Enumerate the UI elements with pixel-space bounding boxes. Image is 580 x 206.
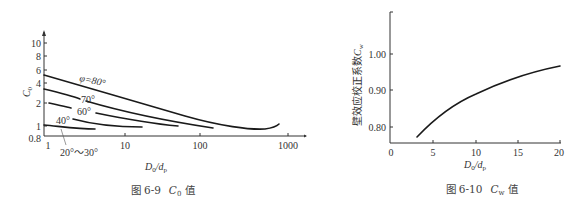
figure-caption: 图 6-10Cw值	[446, 183, 520, 197]
curve-label-70: 70°	[81, 94, 95, 105]
x-tick-label: 10	[471, 147, 481, 158]
chart-c0: 10 8 6 4 2 1 0.8 C0 1 10 100 1000 D0/dp	[21, 30, 300, 198]
x-tick-label: 1	[46, 140, 51, 151]
x-tick-label: 10	[120, 140, 130, 151]
curve-label-40: 40°	[56, 115, 70, 126]
leader-line-20-30	[61, 129, 66, 145]
figure-caption: 图 6-9C0值	[131, 184, 197, 198]
stray-arrow-mark	[300, 135, 307, 138]
y-axis-label: 壁效应校正系数Cw	[351, 43, 365, 126]
y-tick-label: 0.80	[369, 122, 387, 133]
figure-canvas: 10 8 6 4 2 1 0.8 C0 1 10 100 1000 D0/dp	[0, 0, 580, 206]
y-tick-label: 1.00	[369, 49, 387, 60]
x-tick-label: 1000	[278, 140, 298, 151]
x-tick-label: 5	[431, 147, 436, 158]
y-axis-arrow-icon	[42, 30, 46, 36]
y-axis-label: C0	[21, 86, 34, 97]
x-tick-label: 0	[389, 147, 394, 158]
y-ticks: 1.00 0.90 0.80	[369, 49, 394, 133]
x-axis-label: D0/dp	[144, 161, 168, 174]
y-tick-label: 10	[31, 38, 41, 49]
curve-label-20-30: 20°～30°	[60, 147, 98, 158]
y-tick-label: 2	[36, 98, 41, 109]
x-tick-label: 100	[193, 140, 208, 151]
chart-cw: 1.00 0.90 0.80 壁效应校正系数Cw 0 5 10 15 20 D0…	[351, 12, 564, 197]
y-tick-label: 6	[36, 65, 41, 76]
x-tick-label: 15	[513, 147, 523, 158]
y-tick-label: 0.8	[29, 133, 42, 144]
curve-cw	[417, 66, 560, 137]
y-tick-label: 8	[36, 51, 41, 62]
x-axis-label: D0/dp	[463, 159, 487, 172]
y-tick-label: 1	[36, 121, 41, 132]
curve-label-60: 60°	[77, 106, 91, 117]
y-tick-label: 4	[36, 78, 41, 89]
y-tick-label: 0.90	[369, 85, 387, 96]
x-tick-label: 20	[554, 147, 564, 158]
